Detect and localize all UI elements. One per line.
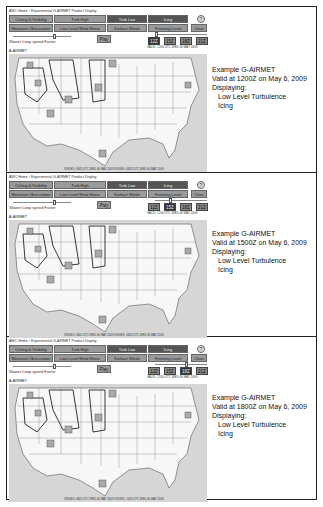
valid-time-text: VALID: 1200 UTC WED 06 MAY 2009 [147,45,197,49]
valid-time-text: VALID: 1200 UTC WED 06 MAY 2009 [147,211,197,215]
icing-button[interactable]: Icing [148,181,188,189]
loop-speed-slider[interactable] [13,202,71,203]
time-slider[interactable] [155,364,207,365]
us-map[interactable]: ISSUED: 0845 UTC WED 06 MAY 2009 ISSUED:… [9,54,207,172]
loop-speed-label: Slower Loop speed Faster [9,39,56,44]
breadcrumb[interactable]: AWC Home › Experimental G-AIRMET Product… [9,339,210,344]
ceiling-visibility-button[interactable]: Ceiling & Visibility [9,181,53,189]
turb-low-button[interactable]: Turb Low [107,345,147,353]
loop-speed-label: Slower Loop speed Faster [9,205,56,210]
freezing-level-button[interactable]: Freezing Level [148,190,188,198]
animation-controls: Slower Loop speed Faster Play 12Z 15Z 18… [9,362,210,379]
surface-winds-button[interactable]: Surface Winds [107,190,147,198]
animation-controls: Slower Loop speed Faster Play 12Z 15Z 18… [9,198,210,215]
time-21z-button[interactable]: 21Z [196,203,208,211]
low-level-wind-shear-button[interactable]: Low Level Wind Shear [54,190,106,198]
valid-time-text: VALID: 1200 UTC WED 06 MAY 2009 [147,375,197,379]
figure-frame: AWC Home › Experimental G-AIRMET Product… [6,6,317,500]
freezing-level-button[interactable]: Freezing Level [148,354,188,362]
clear-button[interactable]: Clear [191,354,207,362]
time-12z-button[interactable]: 12Z [148,203,160,211]
valid-time-buttons: 12Z 15Z 18Z 21Z [148,203,208,211]
surface-winds-button[interactable]: Surface Winds [107,354,147,362]
animation-controls: Slower Loop speed Faster Play 12Z 15Z 18… [9,32,210,49]
ceiling-visibility-button[interactable]: Ceiling & Visibility [9,345,53,353]
product-row-1: Ceiling & Visibility Turb High Turb Low … [9,15,210,23]
valid-time-buttons: 12Z 15Z 18Z 21Z [148,37,208,45]
turb-low-button[interactable]: Turb Low [107,15,147,23]
description-layer-low-level-turbulence: Low Level Turbulence [212,92,307,101]
turb-high-button[interactable]: Turb High [54,181,106,189]
gairmet-app: AWC Home › Experimental G-AIRMET Product… [9,9,210,174]
panel-description: Example G-AIRMET Valid at 1500Z on May 6… [212,229,307,274]
product-row-2: Mountain Obscuration Low Level Wind Shea… [9,190,210,198]
time-12z-button[interactable]: 12Z [148,367,160,375]
product-row-2: Mountain Obscuration Low Level Wind Shea… [9,354,210,362]
mountain-obscuration-button[interactable]: Mountain Obscuration [9,24,53,32]
product-row-2: Mountain Obscuration Low Level Wind Shea… [9,24,210,32]
ceiling-visibility-button[interactable]: Ceiling & Visibility [9,15,53,23]
help-icon[interactable]: ? [197,181,205,189]
description-title: Example G-AIRMET [212,229,307,238]
description-layer-icing: Icing [212,429,307,438]
time-21z-button[interactable]: 21Z [196,367,208,375]
time-18z-button[interactable]: 18Z [180,367,192,375]
description-layer-low-level-turbulence: Low Level Turbulence [212,256,307,265]
time-slider[interactable] [155,34,207,35]
turb-low-button[interactable]: Turb Low [107,181,147,189]
description-valid-time: Valid at 1500Z on May 6, 2009 [212,238,307,247]
time-18z-button[interactable]: 18Z [180,37,192,45]
loop-speed-slider[interactable] [13,36,71,37]
issued-text: ISSUED: 0845 UTC WED 06 MAY 2009 ISSUED:… [64,497,164,501]
time-slider[interactable] [155,200,207,201]
breadcrumb[interactable]: AWC Home › Experimental G-AIRMET Product… [9,9,210,14]
product-row-1: Ceiling & Visibility Turb High Turb Low … [9,345,210,353]
gairmet-panel-3: AWC Home › Experimental G-AIRMET Product… [7,337,316,498]
description-layer-low-level-turbulence: Low Level Turbulence [212,420,307,429]
description-valid-time: Valid at 1800Z on May 6, 2009 [212,402,307,411]
surface-winds-button[interactable]: Surface Winds [107,24,147,32]
panel-description: Example G-AIRMET Valid at 1200Z on May 6… [212,65,307,110]
help-icon[interactable]: ? [197,15,205,23]
gairmet-app: AWC Home › Experimental G-AIRMET Product… [9,175,210,338]
clear-button[interactable]: Clear [191,24,207,32]
time-15z-button[interactable]: 15Z [164,37,176,45]
us-map[interactable]: ISSUED: 0845 UTC WED 06 MAY 2009 ISSUED:… [9,384,207,502]
us-map-graphic [9,54,207,172]
low-level-wind-shear-button[interactable]: Low Level Wind Shear [54,354,106,362]
gairmet-panel-2: AWC Home › Experimental G-AIRMET Product… [7,173,316,337]
time-18z-button[interactable]: 18Z [180,203,192,211]
freezing-level-button[interactable]: Freezing Level [148,24,188,32]
help-icon[interactable]: ? [197,345,205,353]
icing-button[interactable]: Icing [148,15,188,23]
mountain-obscuration-button[interactable]: Mountain Obscuration [9,354,53,362]
description-layer-icing: Icing [212,101,307,110]
gairmet-panel-1: AWC Home › Experimental G-AIRMET Product… [7,7,316,173]
play-button[interactable]: Play [97,35,111,43]
us-map-graphic [9,384,207,502]
icing-button[interactable]: Icing [148,345,188,353]
time-15z-button[interactable]: 15Z [164,367,176,375]
time-15z-button[interactable]: 15Z [164,203,176,211]
description-displaying: Displaying: [212,83,307,92]
low-level-wind-shear-button[interactable]: Low Level Wind Shear [54,24,106,32]
time-21z-button[interactable]: 21Z [196,37,208,45]
turb-high-button[interactable]: Turb High [54,15,106,23]
loop-speed-slider[interactable] [13,366,71,367]
play-button[interactable]: Play [97,365,111,373]
gairmet-app: AWC Home › Experimental G-AIRMET Product… [9,339,210,500]
description-title: Example G-AIRMET [212,393,307,402]
clear-button[interactable]: Clear [191,190,207,198]
time-12z-button[interactable]: 12Z [148,37,160,45]
valid-time-buttons: 12Z 15Z 18Z 21Z [148,367,208,375]
description-displaying: Displaying: [212,411,307,420]
us-map[interactable]: ISSUED: 0845 UTC WED 06 MAY 2009 ISSUED:… [9,220,207,338]
description-layer-icing: Icing [212,265,307,274]
turb-high-button[interactable]: Turb High [54,345,106,353]
breadcrumb[interactable]: AWC Home › Experimental G-AIRMET Product… [9,175,210,180]
mountain-obscuration-button[interactable]: Mountain Obscuration [9,190,53,198]
description-displaying: Displaying: [212,247,307,256]
description-valid-time: Valid at 1200Z on May 6, 2009 [212,74,307,83]
description-title: Example G-AIRMET [212,65,307,74]
play-button[interactable]: Play [97,201,111,209]
